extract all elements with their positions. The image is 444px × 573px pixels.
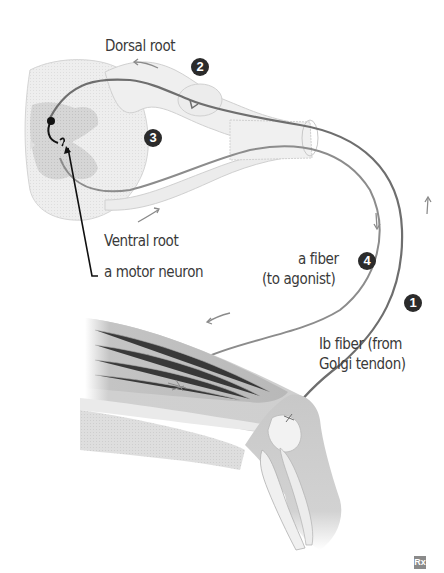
a-fiber-label-line1: a fiber [298,251,339,268]
ib-fiber-label-line1: Ib fiber (from [319,336,402,353]
rx-watermark-icon: Rx [414,556,426,569]
step-badge-1: 1 [404,294,422,312]
step-badge-3: 3 [144,129,162,147]
step-badge-4: 4 [358,252,376,270]
anatomy-illustration [0,0,444,573]
ib-fiber-label-line2: Golgi tendon) [319,356,406,373]
a-fiber-label-line2: (to agonist) [262,271,335,288]
step-badge-2: 2 [191,58,209,76]
dorsal-root-label: Dorsal root [105,38,175,55]
motor-neuron-label: a motor neuron [104,264,203,281]
ventral-root-label: Ventral root [104,233,178,250]
reflex-diagram: Dorsal root Ventral root a motor neuron … [0,0,444,573]
